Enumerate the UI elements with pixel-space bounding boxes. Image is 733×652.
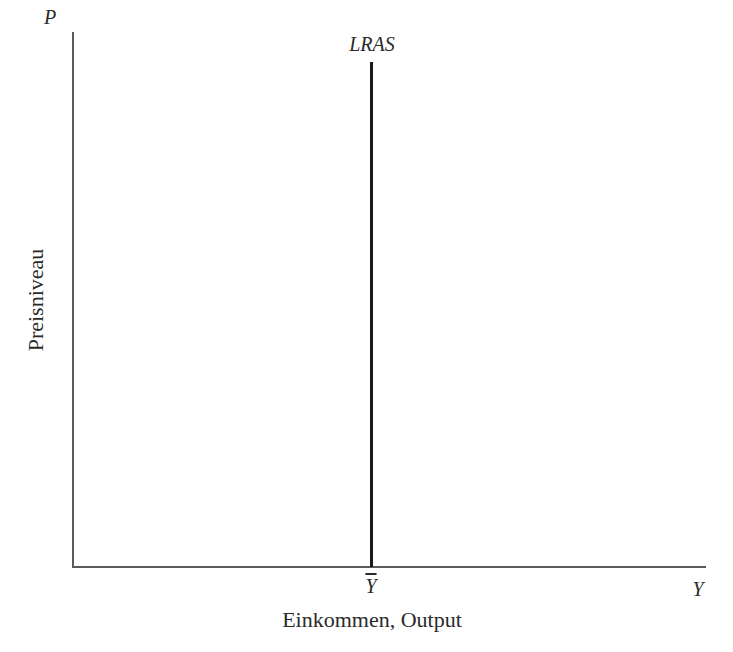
x-axis-title: Einkommen, Output xyxy=(222,606,522,634)
y-axis-symbol: P xyxy=(44,5,56,29)
y-axis-line xyxy=(72,32,74,568)
potential-output-tick-label: Y xyxy=(356,574,386,598)
x-axis-symbol: Y xyxy=(684,577,712,601)
x-axis-line xyxy=(72,566,706,568)
lras-label: LRAS xyxy=(330,32,414,56)
lras-curve xyxy=(370,62,373,567)
y-axis-title: Preisniveau xyxy=(22,249,50,352)
